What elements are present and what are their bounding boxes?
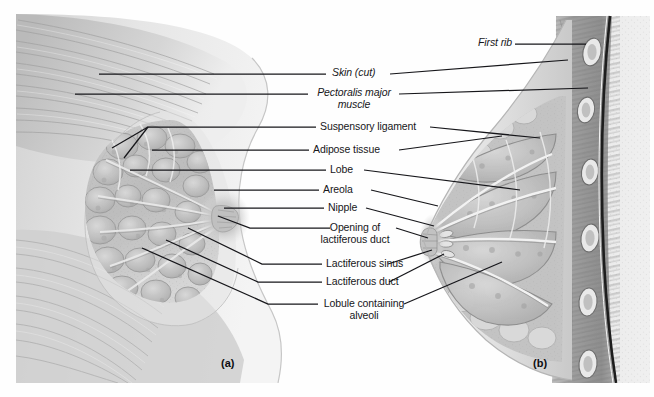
label-adipose-tissue: Adipose tissue [313, 144, 380, 156]
label-pectoralis-major-line1: Pectoralis major [317, 86, 391, 98]
label-areola: Areola [323, 184, 353, 196]
label-opening-line2: lactiferous duct [320, 233, 389, 245]
nipple-right [420, 228, 437, 256]
panel-b-illustration [410, 10, 654, 390]
label-lobe: Lobe [330, 164, 353, 176]
label-nipple: Nipple [328, 202, 357, 214]
label-lactiferous-duct: Lactiferous duct [326, 276, 399, 288]
label-suspensory-ligament: Suspensory ligament [320, 121, 416, 133]
label-opening-lactiferous-duct: Opening oflactiferous duct [318, 222, 392, 245]
label-pectoralis-major: Pectoralis majormuscle [312, 87, 396, 110]
label-lactiferous-sinus: Lactiferous sinus [326, 258, 403, 270]
label-opening-line1: Opening of [330, 221, 380, 233]
breast-anatomy-figure: First rib Skin (cut) Pectoralis majormus… [0, 0, 654, 397]
label-lobule-line1: Lobule containing [324, 297, 405, 309]
anatomy-illustration [0, 0, 654, 397]
label-lobule-line2: alveoli [349, 309, 378, 321]
panel-label-a: (a) [221, 357, 234, 369]
panel-label-b: (b) [533, 357, 547, 369]
panel-a-illustration [16, 14, 281, 383]
leader-areola-right [371, 190, 438, 206]
label-pectoralis-major-line2: muscle [338, 98, 371, 110]
label-lobule-alveoli: Lobule containingalveoli [322, 298, 406, 321]
label-first-rib: First rib [478, 37, 512, 49]
label-skin-cut: Skin (cut) [332, 67, 375, 79]
